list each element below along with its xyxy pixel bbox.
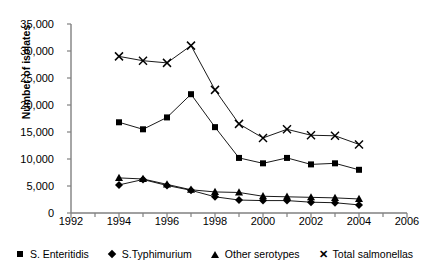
cross-marker [187,42,195,50]
triangle-marker [307,193,315,200]
x-tick-label: 1996 [145,216,189,227]
square-marker [236,155,242,161]
series-total-salmonellas [115,42,363,149]
diamond-marker [283,197,291,205]
cross-marker [259,134,267,142]
series-line [119,178,359,199]
series-s-typhimurium [115,176,363,209]
cross-marker [211,86,219,94]
legend-label: S.Typhimurium [122,248,192,260]
square-marker [260,160,266,166]
triangle-marker [187,186,195,193]
square-marker [164,114,170,120]
cross-marker [211,86,219,94]
triangle-marker [355,195,363,202]
triangle-marker [283,193,291,200]
triangle-marker [235,188,243,195]
y-tick-label: 0 [8,208,54,219]
cross-marker [355,140,363,148]
cross-marker-icon: ✕ [318,249,329,260]
y-tick-label: 5,000 [8,181,54,192]
square-marker [212,124,218,130]
y-tick-label: 20,000 [8,100,54,111]
triangle-marker-icon [210,249,221,260]
diamond-marker [235,196,243,204]
cross-marker [163,59,171,67]
x-tick-label: 2004 [337,216,381,227]
series-other-serotypes [115,174,363,202]
diamond-marker [211,193,219,201]
cross-marker [259,134,267,142]
square-marker [356,167,362,173]
square-marker [188,91,194,97]
triangle-marker [259,192,267,199]
diamond-marker [115,181,123,189]
legend-label: Total salmonellas [333,248,414,260]
x-tick-label: 2002 [289,216,333,227]
cross-marker [115,52,123,60]
triangle-marker [115,174,123,181]
y-tick-label: 10,000 [8,154,54,165]
triangle-marker [331,194,339,201]
triangle-marker [211,188,219,195]
diamond-marker [355,201,363,209]
plot-area [0,0,428,273]
series-line [119,94,359,170]
diamond-marker [259,197,267,205]
diamond-marker [163,181,171,189]
cross-marker [163,59,171,67]
triangle-marker [139,175,147,182]
cross-marker [283,125,291,133]
legend-item: S. Enteritidis [15,248,89,260]
cross-marker [139,57,147,65]
diamond-marker [307,198,315,206]
y-tick-label: 15,000 [8,127,54,138]
diamond-marker [331,199,339,207]
cross-marker [283,125,291,133]
x-tick-label: 2000 [241,216,285,227]
cross-marker [331,132,339,140]
square-marker-icon [15,249,26,260]
series-line [119,180,359,205]
diamond-marker-icon [107,249,118,260]
x-tick-label: 2006 [385,216,428,227]
x-tick-label: 1998 [193,216,237,227]
legend-item: Other serotypes [210,248,300,260]
cross-marker [307,131,315,139]
square-marker [140,126,146,132]
salmonella-isolates-line-chart: Number of isolates 05,00010,00015,00020,… [0,0,428,273]
x-tick-label: 1992 [49,216,93,227]
triangle-marker [163,180,171,187]
series-s-enteritidis [116,91,362,173]
y-tick-label: 25,000 [8,73,54,84]
chart-legend: S. EnteritidisS.TyphimuriumOther serotyp… [0,248,428,260]
cross-marker [187,42,195,50]
square-marker [332,160,338,166]
square-marker [284,155,290,161]
cross-marker [355,140,363,148]
diamond-marker [139,176,147,184]
legend-item: S.Typhimurium [107,248,192,260]
y-tick-label: 30,000 [8,46,54,57]
legend-item: ✕Total salmonellas [318,248,414,260]
square-marker [308,161,314,167]
y-tick-label: 35,000 [8,19,54,30]
diamond-marker [187,186,195,194]
square-marker [116,119,122,125]
x-tick-label: 1994 [97,216,141,227]
series-line [119,46,359,145]
cross-marker [331,132,339,140]
cross-marker [139,57,147,65]
cross-marker [235,120,243,128]
legend-label: Other serotypes [225,248,300,260]
cross-marker [307,131,315,139]
legend-label: S. Enteritidis [30,248,89,260]
cross-marker [235,120,243,128]
cross-marker [115,52,123,60]
